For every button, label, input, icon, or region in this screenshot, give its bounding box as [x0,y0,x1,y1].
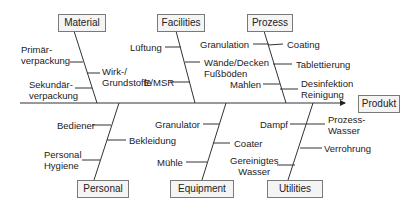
cause-waende-decken-fussboeden: Wände/DeckenFußböden [204,57,269,79]
effect-box-produkt: Produkt [358,95,400,113]
bone-facilities [176,31,195,103]
bone-personal [94,103,119,180]
cause-lueftung: Lüftung [130,42,162,53]
bone-utilities [288,103,313,180]
category-box-equipment: Equipment [170,180,234,198]
cause-prozess-wasser: Prozess-Wasser [328,114,365,136]
cause-granulator: Granulator [155,119,200,130]
cause-personal-hygiene: PersonalHygiene [44,149,82,171]
category-box-facilities: Facilities [157,14,205,32]
cause-e-msr: E/MSR [144,77,174,88]
cause-mahlen: Mahlen [230,79,261,90]
cause-sekundaerverpackung: Sekundär-verpackung [29,79,78,101]
cause-primaerverpackung: Primär-verpackung [21,44,70,66]
cause-coating: Coating [287,39,320,50]
bone-equipment [202,103,226,180]
cause-dampf: Dampf [260,119,288,130]
cause-bediener: Bediener [57,120,95,131]
category-box-material: Material [58,14,106,32]
cause-tablettierung: Tablettierung [296,59,350,70]
cause-coater: Coater [234,138,263,149]
category-box-prozess: Prozess [247,14,293,32]
cause-desinfektion-reinigung: DesinfektionReinigung [301,78,353,100]
category-box-personal: Personal [77,180,129,198]
category-box-utilities: Utilities [267,180,323,198]
cause-bekleidung: Bekleidung [129,135,176,146]
cause-granulation: Granulation [200,39,249,50]
cause-gereinigtes-wasser: GereinigtesWasser [230,155,279,177]
cause-muehle: Mühle [157,157,183,168]
cause-verrohrung: Verrohrung [324,143,371,154]
